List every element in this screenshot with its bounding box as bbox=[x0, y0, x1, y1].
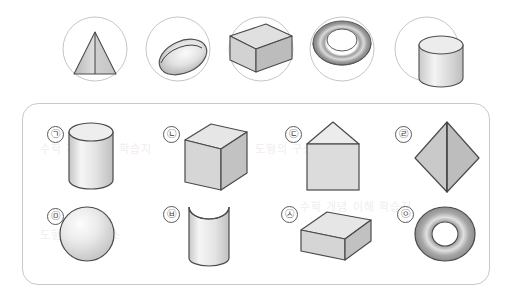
shape-cell-cube: ㉡ bbox=[163, 116, 253, 198]
shape-tag-6: ㉥ bbox=[163, 206, 180, 223]
shape-tag-7: ㉦ bbox=[281, 206, 298, 223]
cross-section-row bbox=[0, 0, 514, 96]
thumb-cone-partial-view bbox=[56, 10, 134, 88]
shape-cell-torus: ㉧ bbox=[397, 198, 483, 272]
thumb-torus-partial-view bbox=[303, 10, 381, 88]
thumb-rectangular-prism-partial-view bbox=[222, 10, 300, 88]
shape-cell-cylinder-concave-top: ㉥ bbox=[163, 198, 243, 272]
shape-tag-5: ㉤ bbox=[47, 208, 64, 225]
shape-tag-3: ㉢ bbox=[285, 126, 302, 143]
shape-tag-4: ㉣ bbox=[395, 126, 412, 143]
shape-tag-8: ㉧ bbox=[397, 206, 414, 223]
worksheet-figure: 수학 개념 이해 학습지 도형의 구성요소 도형의 구성요소 수학 개념 이해 … bbox=[0, 0, 514, 298]
shape-cell-octahedron: ㉣ bbox=[395, 116, 481, 198]
shape-cell-cylinder: ㉠ bbox=[47, 118, 125, 196]
shape-tag-1: ㉠ bbox=[47, 126, 64, 143]
shape-cell-house-prism: ㉢ bbox=[285, 116, 365, 198]
shape-cell-rectangular-prism: ㉦ bbox=[281, 200, 377, 270]
thumb-cylinder-partial-view bbox=[388, 10, 466, 88]
shape-tag-2: ㉡ bbox=[163, 126, 180, 143]
thumb-sphere-partial-view bbox=[139, 10, 217, 88]
shape-cell-sphere: ㉤ bbox=[47, 200, 123, 272]
solids-answer-panel: ㉠ ㉡ bbox=[22, 103, 490, 285]
